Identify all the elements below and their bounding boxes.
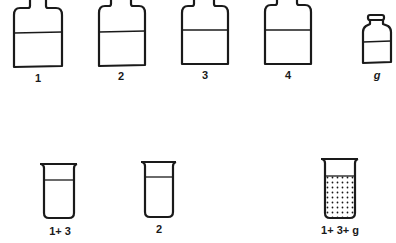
bottle-label-3: 3	[202, 69, 208, 81]
bottle-label-g: g	[374, 69, 381, 81]
bottle-label-2: 2	[118, 70, 124, 82]
beaker-label-1-plus-3: 1+ 3	[49, 225, 71, 237]
beaker-1-plus-3	[40, 164, 77, 218]
beaker-label-1-plus-3-plus-g: 1+ 3+ g	[321, 224, 359, 236]
bottle-label-4: 4	[285, 69, 291, 81]
beaker-2	[141, 162, 176, 217]
precipitate-fill	[325, 176, 354, 217]
bottle-g	[363, 15, 391, 63]
bottle-label-1: 1	[35, 72, 41, 84]
beaker-1-plus-3-plus-g	[321, 159, 358, 218]
bottle-2	[99, 0, 145, 66]
bottle-1	[14, 0, 62, 67]
beaker-label-2: 2	[156, 223, 162, 235]
diagram-canvas	[0, 0, 396, 243]
bottle-3	[182, 0, 228, 64]
bottle-4	[265, 0, 311, 64]
